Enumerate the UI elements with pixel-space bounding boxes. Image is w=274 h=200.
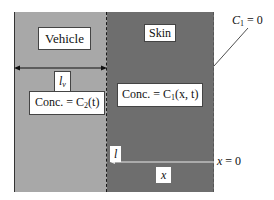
skin-label-text: Skin	[149, 26, 171, 40]
origin-label: x = 0	[217, 154, 241, 169]
skin-thickness-symbol: l	[114, 147, 117, 161]
arrowhead-right-icon	[101, 66, 107, 71]
vehicle-thickness-label: lv	[54, 71, 71, 93]
skin-conc-args: (x, t)	[175, 87, 198, 101]
vehicle-concentration-label: Conc. = C2(t)	[29, 91, 105, 115]
vehicle-label: Vehicle	[38, 27, 91, 50]
arrowhead-left-icon	[14, 66, 20, 71]
vehicle-conc-args: (t)	[88, 95, 99, 109]
vehicle-label-text: Vehicle	[45, 31, 84, 46]
origin-suffix: = 0	[222, 154, 241, 168]
skin-label: Skin	[144, 24, 176, 42]
skin-coordinate-symbol: x	[161, 168, 166, 182]
thickness-subscript: v	[62, 80, 66, 89]
skin-coordinate-label: x	[156, 167, 171, 183]
bc-prefix: C	[232, 13, 240, 27]
bc-suffix: = 0	[244, 13, 263, 27]
vehicle-conc-prefix: Conc. = C	[35, 95, 84, 109]
skin-conc-prefix: Conc. = C	[122, 87, 171, 101]
skin-concentration-label: Conc. = C1(x, t)	[117, 83, 203, 107]
boundary-condition-label: C1 = 0	[232, 13, 263, 28]
skin-thickness-label: l	[110, 146, 121, 162]
boundary-leader-line	[214, 28, 248, 66]
